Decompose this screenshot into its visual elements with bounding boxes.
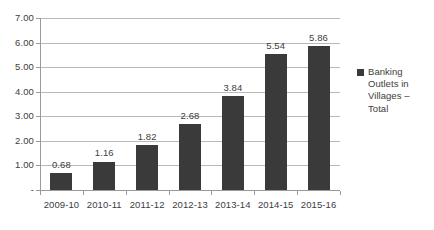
y-axis-tick-label: 5.00 bbox=[2, 62, 34, 72]
x-axis-tick-label: 2012-13 bbox=[166, 199, 214, 210]
x-axis-tick-label: 2014-15 bbox=[252, 199, 300, 210]
bar[interactable] bbox=[265, 54, 287, 190]
chart-legend: Banking Outlets in Villages – Total bbox=[357, 66, 434, 115]
bar-data-label: 3.84 bbox=[213, 83, 253, 93]
bar-data-label: 1.16 bbox=[84, 148, 124, 158]
category-axis-line bbox=[40, 190, 340, 191]
y-axis-tick-label: 7.00 bbox=[2, 13, 34, 23]
y-axis-tick bbox=[36, 43, 40, 44]
bar[interactable] bbox=[179, 124, 201, 190]
bar[interactable] bbox=[50, 173, 72, 190]
y-axis-tick bbox=[36, 116, 40, 117]
x-axis-tick-label: 2015-16 bbox=[295, 199, 343, 210]
x-axis-tick bbox=[254, 191, 255, 195]
bar-chart: 7.006.005.004.003.002.001.00- Banking Ou… bbox=[0, 0, 434, 230]
x-axis-tick bbox=[40, 191, 41, 195]
y-axis-tick bbox=[36, 18, 40, 19]
y-axis-tick-label: 4.00 bbox=[2, 87, 34, 97]
y-axis-tick-label: 1.00 bbox=[2, 160, 34, 170]
x-axis-tick bbox=[297, 191, 298, 195]
bar[interactable] bbox=[308, 46, 330, 190]
x-axis-tick-label: 2010-11 bbox=[80, 199, 128, 210]
y-axis-labels: 7.006.005.004.003.002.001.00- bbox=[0, 0, 34, 230]
x-axis-tick-label: 2013-14 bbox=[209, 199, 257, 210]
x-axis-tick bbox=[340, 191, 341, 195]
bar-data-label: 2.68 bbox=[170, 111, 210, 121]
y-axis-tick bbox=[36, 165, 40, 166]
bar[interactable] bbox=[222, 96, 244, 190]
y-axis-tick-label: 2.00 bbox=[2, 136, 34, 146]
x-axis-tick bbox=[83, 191, 84, 195]
bar[interactable] bbox=[136, 145, 158, 190]
x-axis-tick-label: 2011-12 bbox=[123, 199, 171, 210]
bar-data-label: 1.82 bbox=[127, 132, 167, 142]
x-axis-tick bbox=[211, 191, 212, 195]
legend-label: Banking Outlets in Villages – Total bbox=[368, 66, 432, 115]
x-axis-tick bbox=[169, 191, 170, 195]
bar-data-label: 5.86 bbox=[299, 33, 339, 43]
x-axis-tick-label: 2009-10 bbox=[37, 199, 85, 210]
y-axis-tick-label: 6.00 bbox=[2, 38, 34, 48]
x-axis-tick bbox=[126, 191, 127, 195]
legend-color-swatch-icon bbox=[357, 69, 364, 76]
y-axis-tick bbox=[36, 67, 40, 68]
y-axis-tick-label: - bbox=[2, 185, 34, 195]
y-axis-tick bbox=[36, 92, 40, 93]
bar[interactable] bbox=[93, 162, 115, 191]
bar-data-label: 0.68 bbox=[41, 160, 81, 170]
y-axis-tick bbox=[36, 141, 40, 142]
y-axis-tick-label: 3.00 bbox=[2, 111, 34, 121]
bar-data-label: 5.54 bbox=[256, 41, 296, 51]
